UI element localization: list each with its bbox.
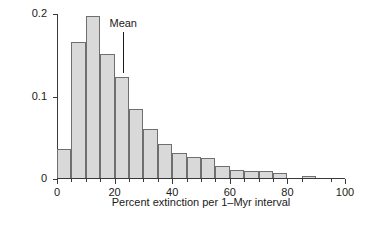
x-tick-minor <box>201 179 202 182</box>
histogram-bar <box>273 173 287 178</box>
x-tick-minor <box>187 179 188 182</box>
x-tick-minor <box>71 179 72 182</box>
histogram-bar <box>115 77 129 178</box>
x-tick-minor <box>86 179 87 182</box>
y-tick: 0.1 <box>53 97 57 98</box>
y-tick-label: 0.1 <box>32 90 47 102</box>
histogram-bar <box>187 157 201 178</box>
x-tick-minor <box>215 179 216 182</box>
x-tick-minor <box>158 179 159 182</box>
histogram-bar <box>201 158 215 178</box>
histogram-bar <box>259 171 273 178</box>
x-tick-minor <box>143 179 144 182</box>
x-tick-major <box>345 179 346 184</box>
x-tick-major <box>172 179 173 184</box>
y-tick-label: 0 <box>41 172 47 184</box>
x-tick-minor <box>259 179 260 182</box>
x-tick-major <box>57 179 58 184</box>
mean-indicator-line <box>123 32 124 73</box>
x-tick-minor <box>244 179 245 182</box>
x-tick-minor <box>331 179 332 182</box>
x-tick-major <box>115 179 116 184</box>
histogram-bar <box>172 153 186 178</box>
y-tick-label: 0.2 <box>32 7 47 19</box>
y-tick-mark <box>53 97 57 98</box>
x-tick-major <box>230 179 231 184</box>
histogram-bar <box>215 166 229 178</box>
histogram-bar <box>158 144 172 178</box>
mean-annotation-label: Mean <box>109 17 137 29</box>
x-tick-minor <box>100 179 101 182</box>
y-tick-mark <box>53 14 57 15</box>
histogram-bar <box>86 16 100 178</box>
x-tick-minor <box>273 179 274 182</box>
histogram-bar <box>129 109 143 178</box>
plot-area: 00.10.2 020406080100 Mean <box>57 14 345 179</box>
histogram-bar <box>71 42 85 178</box>
histogram-bar <box>57 149 71 178</box>
x-axis-title: Percent extinction per 1–Myr interval <box>57 196 345 208</box>
x-tick-minor <box>129 179 130 182</box>
x-tick-minor <box>302 179 303 182</box>
histogram-bar <box>244 171 258 178</box>
y-tick: 0.2 <box>53 14 57 15</box>
histogram-bar <box>143 129 157 179</box>
histogram-figure: Frequency 00.10.2 020406080100 Mean Perc… <box>0 0 370 230</box>
histogram-bar <box>230 170 244 178</box>
histogram-bar <box>100 54 114 178</box>
x-tick-major <box>287 179 288 184</box>
histogram-bar <box>302 176 316 178</box>
